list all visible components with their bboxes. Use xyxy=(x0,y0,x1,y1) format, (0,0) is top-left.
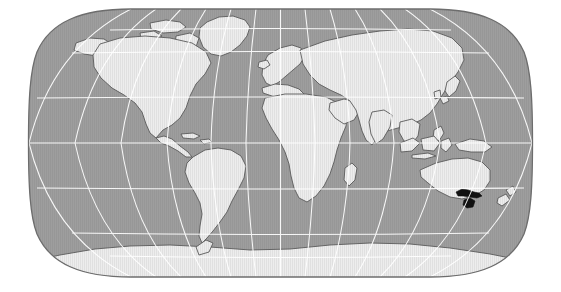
world-locator-map-figure xyxy=(0,0,561,292)
world-map-svg xyxy=(0,0,561,292)
